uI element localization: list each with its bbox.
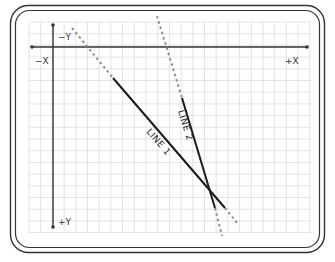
line-2-label: LINE 2 xyxy=(176,109,195,142)
neg-y-label: −Y xyxy=(58,32,72,42)
outer-frame xyxy=(11,6,325,253)
line-2: LINE 2 xyxy=(157,16,222,236)
line-1-dashed-end xyxy=(225,208,238,224)
neg-x-label: −X xyxy=(35,56,49,66)
inner-frame xyxy=(16,11,320,248)
line-1-dashed-start xyxy=(72,28,113,78)
y-axis xyxy=(51,23,55,229)
diagram-canvas: −X +X −Y +Y LINE 1 LINE 2 xyxy=(0,0,335,262)
grid xyxy=(29,22,311,233)
pos-x-label: +X xyxy=(285,56,299,66)
pos-y-label: +Y xyxy=(58,217,72,227)
